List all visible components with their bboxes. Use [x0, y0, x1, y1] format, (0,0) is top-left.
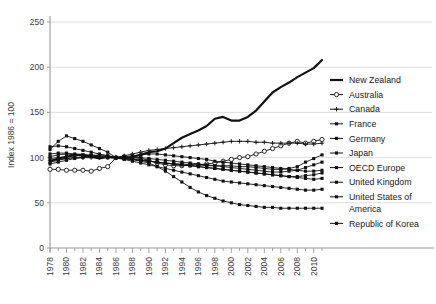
y-tick-label: 200 [30, 62, 44, 72]
legend: New ZealandAustraliaCanadaFranceGermanyJ… [330, 75, 419, 228]
data-point-marker [139, 160, 142, 163]
data-point-marker [304, 189, 307, 192]
legend-item-germany[interactable]: Germany [330, 134, 386, 144]
data-point-marker [304, 177, 307, 180]
data-point-marker [90, 151, 93, 154]
legend-item-new-zealand[interactable]: New Zealand [330, 75, 401, 85]
data-point-marker [65, 159, 68, 162]
data-point-marker [320, 161, 323, 164]
data-point-marker [57, 161, 60, 164]
data-point-marker [296, 207, 299, 210]
data-point-marker [279, 174, 282, 177]
data-point-marker [304, 166, 307, 169]
data-point-marker [238, 181, 241, 184]
data-point-marker [320, 188, 323, 191]
data-point-marker [255, 171, 258, 174]
data-point-marker [238, 203, 241, 206]
data-point-marker [230, 201, 233, 204]
data-point-marker [90, 143, 93, 146]
legend-item-united-kingdom[interactable]: United Kingdom [330, 177, 412, 187]
data-point-marker [164, 167, 167, 170]
data-point-marker [222, 168, 225, 171]
legend-label: France [349, 119, 376, 129]
data-point-marker [246, 155, 250, 159]
data-point-marker [89, 169, 93, 173]
data-point-marker [106, 165, 110, 169]
data-point-marker [65, 145, 68, 148]
data-point-marker [296, 188, 299, 191]
data-point-marker [90, 155, 93, 158]
legend-item-australia[interactable]: Australia [330, 90, 383, 100]
legend-label: Japan [349, 148, 373, 158]
data-point-marker [139, 153, 142, 156]
data-point-marker [81, 153, 84, 156]
data-point-marker [73, 168, 77, 172]
data-point-marker [57, 140, 60, 143]
data-point-marker [156, 152, 159, 155]
legend-item-canada[interactable]: Canada [330, 104, 380, 114]
data-point-marker [246, 171, 249, 174]
legend-label: Canada [349, 104, 380, 114]
y-tick-label: 50 [35, 198, 45, 208]
data-point-marker [255, 183, 258, 186]
data-point-marker [189, 164, 192, 167]
data-point-marker [263, 165, 266, 168]
data-point-marker [172, 162, 175, 165]
legend-item-japan[interactable]: Japan [330, 148, 373, 158]
data-point-marker [81, 168, 85, 172]
data-point-marker [57, 144, 60, 147]
legend-item-republic-of-korea[interactable]: Republic of Korea [330, 219, 419, 229]
data-point-marker [180, 161, 183, 164]
data-point-marker [222, 199, 225, 202]
data-point-marker [296, 169, 299, 172]
data-point-marker [312, 173, 315, 176]
data-point-marker [263, 170, 266, 173]
data-point-marker [287, 175, 290, 178]
data-point-marker [230, 169, 233, 172]
x-tick-label: 1998 [210, 257, 220, 276]
data-point-marker [48, 167, 52, 171]
data-point-marker [147, 152, 150, 155]
data-point-marker [205, 194, 208, 197]
data-point-marker [205, 163, 208, 166]
data-point-marker [189, 186, 192, 189]
data-point-marker [205, 176, 208, 179]
data-point-marker [172, 160, 175, 163]
x-tick-label: 1988 [127, 257, 137, 276]
data-point-marker [279, 186, 282, 189]
data-point-marker [335, 222, 338, 225]
data-point-marker [197, 174, 200, 177]
data-point-marker [48, 145, 51, 148]
data-point-marker [48, 162, 51, 165]
data-point-marker [320, 169, 323, 172]
data-point-marker [56, 167, 60, 171]
data-point-marker [312, 189, 315, 192]
data-point-marker [65, 152, 68, 155]
data-point-marker [320, 177, 323, 180]
x-tick-label: 2010 [309, 257, 319, 276]
data-point-marker [98, 147, 101, 150]
data-point-marker [172, 154, 175, 157]
data-point-marker [97, 166, 101, 170]
legend-item-oecd-europe[interactable]: OECD Europe [330, 163, 405, 173]
data-point-marker [197, 157, 200, 160]
data-point-marker [197, 162, 200, 165]
data-point-marker [312, 157, 315, 160]
data-point-marker [271, 206, 274, 209]
data-point-marker [172, 175, 175, 178]
data-point-marker [246, 163, 249, 166]
legend-item-france[interactable]: France [330, 119, 376, 129]
data-point-marker [131, 158, 134, 161]
data-point-marker [279, 207, 282, 210]
data-point-marker [197, 190, 200, 193]
chart-container: 0501001502002501978198019821984198619881… [0, 0, 436, 304]
legend-label-cont: America [349, 204, 381, 214]
data-point-marker [180, 163, 183, 166]
x-tick-label: 2004 [259, 257, 269, 276]
data-point-marker [304, 161, 307, 164]
data-point-marker [304, 207, 307, 210]
x-tick-label: 2000 [226, 257, 236, 276]
data-point-marker [156, 158, 159, 161]
data-point-marker [123, 157, 126, 160]
data-point-marker [304, 170, 307, 173]
